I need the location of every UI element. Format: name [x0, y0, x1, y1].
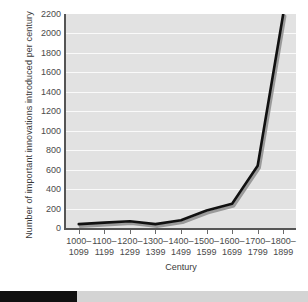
y-axis-tick-labels: 0200400600800100012001400160018002000220…: [24, 14, 64, 228]
x-tick-label-line: 1800–: [263, 236, 303, 247]
y-tick-label: 1400: [41, 87, 61, 97]
x-tick-mark: [181, 230, 182, 234]
chart-figure: Number of important innovations introduc…: [0, 0, 308, 302]
x-axis-spine: [64, 228, 296, 230]
y-axis-spine: [64, 14, 66, 229]
y-tick-label: 600: [46, 165, 61, 175]
data-line: [79, 14, 283, 224]
y-tick-label: 2000: [41, 28, 61, 38]
progress-bar-track[interactable]: [0, 291, 308, 302]
y-tick-label: 400: [46, 184, 61, 194]
data-line-shadow: [80, 16, 284, 226]
y-tick-label: 200: [46, 204, 61, 214]
x-tick-mark: [232, 230, 233, 234]
y-tick-label: 1200: [41, 106, 61, 116]
x-tick-mark: [130, 230, 131, 234]
x-tick-mark: [104, 230, 105, 234]
x-tick-mark: [258, 230, 259, 234]
x-tick-label: 1800–1899: [263, 236, 303, 258]
x-tick-mark: [155, 230, 156, 234]
x-tick-mark: [79, 230, 80, 234]
y-tick-label: 0: [56, 223, 61, 233]
x-tick-mark: [283, 230, 284, 234]
progress-bar-fill: [0, 291, 77, 302]
y-tick-label: 1600: [41, 67, 61, 77]
x-axis-title: Century: [66, 262, 296, 272]
y-tick-label: 1800: [41, 48, 61, 58]
data-line-svg: [66, 14, 296, 228]
y-tick-label: 2200: [41, 9, 61, 19]
plot-area: [66, 14, 296, 228]
x-tick-mark: [207, 230, 208, 234]
y-tick-label: 1000: [41, 126, 61, 136]
x-tick-label-line: 1899: [263, 247, 303, 258]
y-tick-label: 800: [46, 145, 61, 155]
